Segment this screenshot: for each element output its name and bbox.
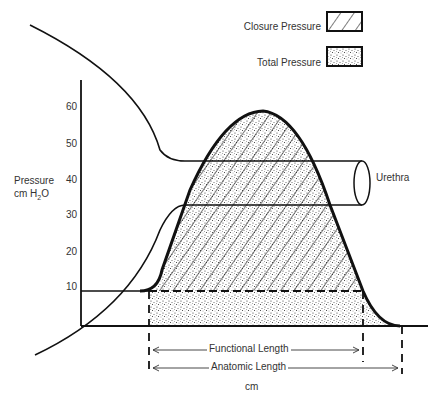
urethra-opening xyxy=(354,161,370,205)
ytick-20: 20 xyxy=(57,247,77,257)
legend-total-swatch xyxy=(327,47,362,66)
ytick-60: 60 xyxy=(57,102,77,112)
ytick-40: 40 xyxy=(57,175,77,185)
functional-length-label: Functional Length xyxy=(207,344,291,354)
x-unit-label: cm xyxy=(245,382,258,392)
urethra-label: Urethra xyxy=(376,173,409,183)
y-axis-label-line2: cm H2O xyxy=(14,189,49,201)
legend-closure-swatch xyxy=(327,12,362,31)
ytick-10: 10 xyxy=(57,282,77,292)
legend-closure-label: Closure Pressure xyxy=(244,22,321,32)
anatomic-length-label: Anatomic Length xyxy=(209,362,288,372)
ytick-30: 30 xyxy=(57,210,77,220)
legend-total-label: Total Pressure xyxy=(257,58,321,68)
bladder-arc xyxy=(30,25,185,161)
y-axis-label-line1: Pressure xyxy=(14,176,54,186)
ytick-50: 50 xyxy=(57,139,77,149)
